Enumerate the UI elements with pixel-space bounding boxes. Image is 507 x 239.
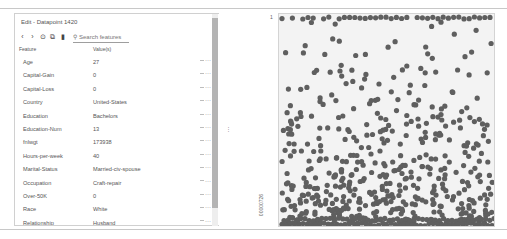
tick-mark — [200, 127, 204, 128]
table-row: CountryUnited-States··· — [15, 96, 215, 109]
tick-mark — [200, 60, 204, 61]
table-row: fnlwgt173938··· — [15, 136, 215, 149]
tick-mark — [200, 100, 204, 101]
scatter-canvas[interactable] — [279, 14, 495, 227]
tick-mark — [200, 194, 204, 195]
scroll-ticks — [200, 0, 208, 239]
feature-value[interactable]: Craft-repair — [93, 180, 121, 186]
tick-mark — [200, 154, 204, 155]
table-row: OccupationCraft-repair··· — [15, 177, 215, 190]
delete-icon[interactable]: ▮ — [59, 32, 66, 42]
search-features-input[interactable]: ⚲ Search features — [73, 32, 129, 43]
feature-value[interactable]: United-States — [93, 99, 127, 105]
feature-name: Relationship — [23, 220, 54, 226]
tick-mark — [200, 220, 204, 221]
tick-mark — [200, 207, 204, 208]
feature-value[interactable]: 173938 — [93, 139, 112, 145]
feature-name: Country — [23, 99, 43, 105]
table-row: Over-50K0··· — [15, 190, 215, 203]
feature-name: Hours-per-week — [23, 153, 63, 159]
tick-mark — [200, 114, 204, 115]
feature-table-header: Feature Value(s) — [19, 46, 215, 54]
tick-mark — [200, 167, 204, 168]
datapoint-editor-panel: Edit - Datapoint 1420 ‹ › ⊙ ⧉ ▮ ⚲ Search… — [14, 13, 219, 226]
feature-value[interactable]: White — [93, 206, 107, 212]
feature-name: fnlwgt — [23, 139, 38, 145]
chevron-right-icon[interactable]: › — [29, 32, 36, 42]
column-header-feature: Feature — [19, 46, 36, 52]
chevron-left-icon[interactable]: ‹ — [19, 32, 26, 42]
history-icon[interactable]: ⊙ — [39, 32, 46, 42]
y-axis-bottom-label: 00000726 — [258, 194, 264, 216]
feature-name: Education-Num — [23, 126, 62, 132]
datapoint-scatter-plot[interactable] — [278, 13, 495, 227]
feature-value[interactable]: 0 — [93, 72, 96, 78]
editor-title: Edit - Datapoint 1420 — [21, 19, 77, 25]
table-row: EducationBachelors··· — [15, 110, 215, 123]
table-row: Education-Num13··· — [15, 123, 215, 136]
tick-mark — [200, 180, 204, 181]
table-row: Hours-per-week40··· — [15, 150, 215, 163]
y-axis-top-label: 1 — [270, 14, 273, 20]
table-row: Marital-StatusMarried-civ-spouse··· — [15, 163, 215, 176]
search-placeholder: Search features — [79, 34, 121, 40]
feature-value[interactable]: 0 — [93, 193, 96, 199]
feature-value[interactable]: Bachelors — [93, 113, 118, 119]
scrollbar-thumb[interactable] — [212, 18, 218, 208]
editor-toolbar: ‹ › ⊙ ⧉ ▮ ⚲ Search features — [19, 31, 129, 43]
feature-name: Race — [23, 206, 36, 212]
table-row: Capital-Loss0··· — [15, 83, 215, 96]
feature-value[interactable]: Married-civ-spouse — [93, 166, 141, 172]
search-icon: ⚲ — [73, 33, 77, 40]
feature-name: Capital-Loss — [23, 86, 54, 92]
panel-resize-handle[interactable]: ⋮ — [226, 126, 231, 132]
feature-name: Marital-Status — [23, 166, 58, 172]
feature-value[interactable]: 0 — [93, 86, 96, 92]
tick-mark — [200, 73, 204, 74]
table-row: RelationshipHusband··· — [15, 217, 215, 226]
feature-name: Education — [23, 113, 48, 119]
y-axis-label: 00000726 — [264, 188, 276, 228]
copy-icon[interactable]: ⧉ — [49, 32, 56, 42]
tick-mark — [200, 140, 204, 141]
table-row: RaceWhite··· — [15, 203, 215, 216]
feature-value[interactable]: 27 — [93, 59, 99, 65]
feature-value[interactable]: 40 — [93, 153, 99, 159]
table-row: Capital-Gain0··· — [15, 69, 215, 82]
feature-value[interactable]: Husband — [93, 220, 115, 226]
column-header-value: Value(s) — [93, 46, 111, 52]
tick-mark — [200, 87, 204, 88]
feature-value[interactable]: 13 — [93, 126, 99, 132]
table-row: Age27··· — [15, 56, 215, 69]
feature-name: Age — [23, 59, 33, 65]
feature-name: Capital-Gain — [23, 72, 54, 78]
editor-scrollbar[interactable] — [212, 14, 218, 226]
feature-rows: Age27··· Capital-Gain0··· Capital-Loss0·… — [15, 56, 215, 226]
feature-name: Over-50K — [23, 193, 47, 199]
feature-name: Occupation — [23, 180, 51, 186]
